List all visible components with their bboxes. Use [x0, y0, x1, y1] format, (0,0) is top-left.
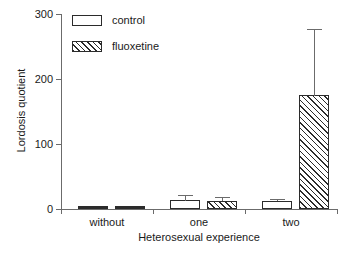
x-tick-label-two: two — [245, 216, 337, 228]
x-tick-label-one: one — [153, 216, 245, 228]
bar-two-control[interactable] — [262, 201, 292, 209]
y-tick-label-0: 0 — [5, 204, 53, 215]
x-axis-line — [61, 209, 337, 210]
chart-figure: 300 200 100 0 Lordosis quotient without … — [0, 0, 348, 256]
y-tick-300 — [56, 14, 61, 15]
x-tick-left-edge — [61, 209, 62, 214]
bar-without-fluoxetine[interactable] — [115, 206, 145, 209]
y-tick-label-100: 100 — [5, 139, 53, 150]
bar-two-fluoxetine[interactable] — [299, 95, 329, 209]
y-tick-label-200: 200 — [5, 74, 53, 85]
y-axis-title: Lordosis quotient — [16, 51, 27, 171]
bar-without-control[interactable] — [78, 206, 108, 209]
y-tick-100 — [56, 144, 61, 145]
x-tick-sep-2 — [245, 209, 246, 214]
errorbar-two-fluoxetine-stem — [314, 29, 315, 96]
y-tick-200 — [56, 79, 61, 80]
errorbar-two-fluoxetine-cap — [307, 29, 322, 30]
y-tick-label-300: 300 — [5, 9, 53, 20]
errorbar-one-control-cap — [178, 195, 193, 196]
legend-label-fluoxetine: fluoxetine — [112, 39, 159, 53]
x-tick-label-without: without — [61, 216, 153, 228]
bar-one-fluoxetine[interactable] — [207, 201, 237, 209]
bar-one-control[interactable] — [170, 200, 200, 209]
x-tick-right-edge — [337, 209, 338, 214]
x-tick-sep-1 — [153, 209, 154, 214]
legend-swatch-fluoxetine-icon — [72, 41, 102, 52]
x-axis-title: Heterosexual experience — [61, 232, 337, 243]
legend-swatch-control-icon — [72, 15, 102, 26]
errorbar-one-fluoxetine-cap — [215, 197, 230, 198]
legend-label-control: control — [112, 13, 145, 27]
y-axis-line — [61, 14, 62, 209]
errorbar-two-control-cap — [270, 199, 285, 200]
